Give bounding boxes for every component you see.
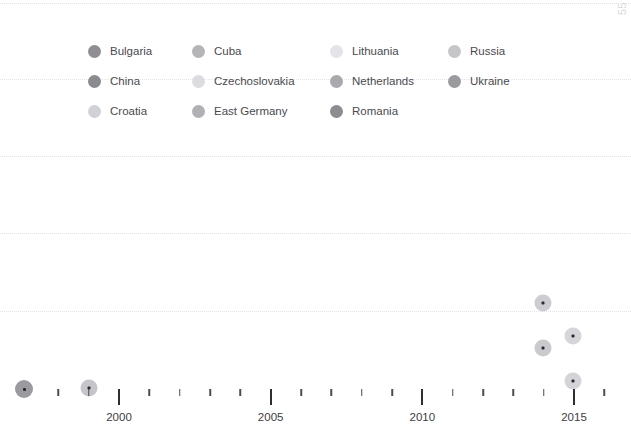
- gridline: [0, 156, 631, 157]
- legend: BulgariaChinaCroatiaCubaCzechoslovakiaEa…: [88, 36, 558, 126]
- legend-item-label: Croatia: [110, 105, 147, 117]
- x-axis-tick-label: 2005: [258, 411, 284, 423]
- legend-item-east-germany[interactable]: East Germany: [192, 105, 330, 118]
- legend-item-croatia[interactable]: Croatia: [88, 105, 192, 118]
- x-axis-tick-minor: [452, 389, 454, 396]
- x-axis-tick-label: 2000: [106, 411, 132, 423]
- x-axis-tick-minor: [391, 389, 393, 396]
- legend-item-czechoslovakia[interactable]: Czechoslovakia: [192, 75, 330, 88]
- x-axis-tick-major: [421, 389, 423, 405]
- legend-swatch-icon: [88, 105, 101, 118]
- x-axis-tick-minor: [88, 389, 90, 396]
- x-axis-tick-minor: [604, 389, 606, 396]
- legend-swatch-icon: [192, 105, 205, 118]
- x-axis-tick-minor: [179, 389, 181, 396]
- data-point[interactable]: [565, 373, 582, 390]
- legend-swatch-icon: [88, 75, 101, 88]
- data-point[interactable]: [535, 295, 552, 312]
- x-axis-tick-minor: [209, 389, 211, 396]
- x-axis-tick-major: [118, 389, 120, 405]
- legend-item-russia[interactable]: Russia: [448, 45, 558, 58]
- x-axis-tick-major: [270, 389, 272, 405]
- legend-item-netherlands[interactable]: Netherlands: [330, 75, 448, 88]
- legend-item-label: Czechoslovakia: [214, 75, 295, 87]
- x-axis-tick-label: 2015: [561, 411, 587, 423]
- gridline: [0, 3, 631, 4]
- data-point[interactable]: [565, 328, 582, 345]
- x-axis-tick-minor: [482, 389, 484, 396]
- legend-item-label: Romania: [352, 105, 398, 117]
- legend-item-label: Ukraine: [470, 75, 510, 87]
- legend-item-label: East Germany: [214, 105, 288, 117]
- legend-item-bulgaria[interactable]: Bulgaria: [88, 45, 192, 58]
- gridline: [0, 311, 631, 312]
- legend-swatch-icon: [448, 75, 461, 88]
- x-axis-tick-major: [573, 389, 575, 405]
- legend-swatch-icon: [330, 105, 343, 118]
- y-axis-corner-label: 55: [616, 2, 628, 15]
- x-axis-tick-minor: [543, 389, 545, 396]
- data-point[interactable]: [535, 340, 552, 357]
- legend-swatch-icon: [192, 75, 205, 88]
- legend-item-label: Cuba: [214, 45, 242, 57]
- legend-swatch-icon: [88, 45, 101, 58]
- x-axis: 2000200520102015: [0, 389, 631, 436]
- legend-item-label: Lithuania: [352, 45, 399, 57]
- legend-swatch-icon: [330, 75, 343, 88]
- legend-item-label: Netherlands: [352, 75, 414, 87]
- legend-item-lithuania[interactable]: Lithuania: [330, 45, 448, 58]
- gridline: [0, 233, 631, 234]
- legend-item-ukraine[interactable]: Ukraine: [448, 75, 558, 88]
- x-axis-tick-minor: [331, 389, 333, 396]
- legend-item-cuba[interactable]: Cuba: [192, 45, 330, 58]
- legend-swatch-icon: [330, 45, 343, 58]
- x-axis-tick-minor: [149, 389, 151, 396]
- legend-swatch-icon: [192, 45, 205, 58]
- legend-item-label: Bulgaria: [110, 45, 152, 57]
- legend-item-label: Russia: [470, 45, 505, 57]
- legend-swatch-icon: [448, 45, 461, 58]
- legend-item-label: China: [110, 75, 140, 87]
- x-axis-tick-minor: [58, 389, 60, 396]
- x-axis-tick-minor: [240, 389, 242, 396]
- x-axis-tick-label: 2010: [410, 411, 436, 423]
- scatter-chart: 55 BulgariaChinaCroatiaCubaCzechoslovaki…: [0, 0, 631, 436]
- x-axis-tick-minor: [361, 389, 363, 396]
- x-axis-tick-minor: [513, 389, 515, 396]
- x-axis-tick-minor: [300, 389, 302, 396]
- legend-item-china[interactable]: China: [88, 75, 192, 88]
- legend-item-romania[interactable]: Romania: [330, 105, 448, 118]
